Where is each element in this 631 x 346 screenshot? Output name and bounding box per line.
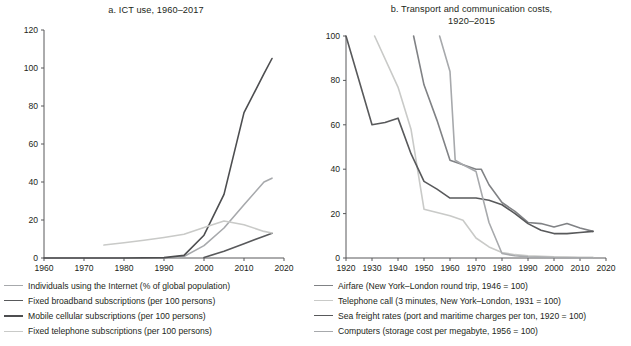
legend-item-label: Sea freight rates (port and maritime cha… [338,311,586,321]
legend-item[interactable]: Computers (storage cost per megabyte, 19… [314,324,629,339]
x-axis-tick-label: 1980 [114,263,133,273]
legend-item-label: Fixed broadband subscriptions (per 100 p… [28,296,215,306]
y-axis-tick-label: 100 [306,31,340,41]
y-axis-tick-label: 120 [4,25,38,35]
x-axis-tick-label: 2020 [274,263,293,273]
legend-item-label: Individuals using the Internet (% of glo… [28,281,230,291]
panel-a-svg [44,30,284,258]
legend-item[interactable]: Airfare (New York–London round trip, 194… [314,278,629,293]
legend-item[interactable]: Fixed broadband subscriptions (per 100 p… [4,293,304,308]
panel-a-legend: Individuals using the Internet (% of glo… [4,278,304,339]
x-axis-tick-label: 2020 [596,263,615,273]
series-line [44,59,272,259]
legend-line-swatch [4,300,23,301]
legend-line-swatch [4,331,23,332]
legend-item-label: Telephone call (3 minutes, New York–Lond… [338,296,561,306]
panel-b-title-line2: 1920–2015 [448,16,495,26]
panel-b-plot-area: 0204060801001920193019401950196019701980… [346,36,606,258]
x-axis-tick-label: 1960 [34,263,53,273]
axis-lines [44,30,284,258]
panel-a-plot-area: 0204060801001201960197019801990200020102… [44,30,284,258]
x-axis-tick-label: 1940 [388,263,407,273]
panel-b-title-line1: b. Transport and communication costs, [391,4,553,14]
x-axis-tick-label: 1930 [362,263,381,273]
x-axis-tick-label: 1950 [414,263,433,273]
series-line [104,221,272,245]
legend-item-label: Airfare (New York–London round trip, 194… [338,281,528,291]
x-axis-tick-label: 1970 [74,263,93,273]
legend-item-label: Fixed telephone subscriptions (per 100 p… [28,326,212,336]
x-axis-tick-label: 1990 [154,263,173,273]
panel-b-title: b. Transport and communication costs, 19… [312,4,631,27]
x-axis-tick-label: 2010 [234,263,253,273]
legend-line-swatch [314,300,333,301]
legend-item-label: Computers (storage cost per megabyte, 19… [338,326,538,336]
series-line [346,36,593,234]
legend-line-swatch [314,285,333,286]
legend-item-label: Mobile cellular subscriptions (per 100 p… [28,311,206,321]
legend-item[interactable]: Mobile cellular subscriptions (per 100 p… [4,308,304,323]
y-axis-tick-label: 100 [4,63,38,73]
x-axis-tick-label: 1990 [518,263,537,273]
series-line [414,36,593,231]
panel-b-legend: Airfare (New York–London round trip, 194… [314,278,629,339]
axis-lines [346,36,606,258]
series-line [375,36,593,257]
y-axis-tick-label: 0 [4,253,38,263]
y-axis-tick-label: 80 [4,101,38,111]
y-axis-tick-label: 80 [306,75,340,85]
y-axis-tick-label: 20 [4,215,38,225]
legend-item[interactable]: Telephone call (3 minutes, New York–Lond… [314,293,629,308]
y-axis-tick-label: 60 [4,139,38,149]
y-axis-tick-label: 60 [306,120,340,130]
y-axis-tick-label: 40 [306,164,340,174]
x-axis-tick-label: 1980 [492,263,511,273]
legend-line-swatch [4,315,23,317]
legend-line-swatch [4,285,23,286]
x-axis-tick-label: 2000 [194,263,213,273]
panel-b-svg [346,36,606,258]
y-axis-tick-label: 0 [306,253,340,263]
legend-line-swatch [314,331,333,332]
series-line [164,178,272,258]
legend-line-swatch [314,315,333,316]
y-axis-tick-label: 40 [4,177,38,187]
x-axis-tick-label: 1970 [466,263,485,273]
legend-item[interactable]: Individuals using the Internet (% of glo… [4,278,304,293]
panel-a-title: a. ICT use, 1960–2017 [0,5,312,17]
x-axis-tick-label: 2010 [570,263,589,273]
y-axis-tick-label: 20 [306,209,340,219]
legend-item[interactable]: Fixed telephone subscriptions (per 100 p… [4,324,304,339]
x-axis-tick-label: 1960 [440,263,459,273]
x-axis-tick-label: 1920 [336,263,355,273]
x-axis-tick-label: 2000 [544,263,563,273]
legend-item[interactable]: Sea freight rates (port and maritime cha… [314,308,629,323]
